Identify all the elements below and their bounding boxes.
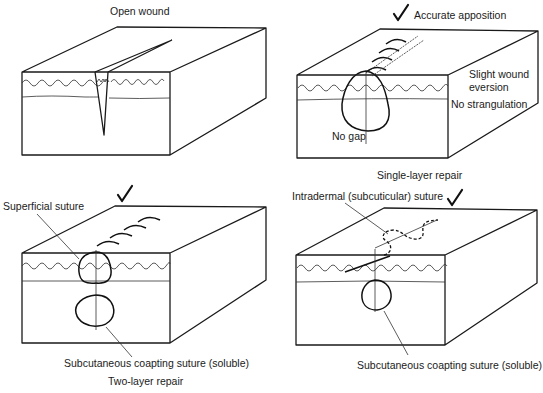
intradermal-suture-dashed [383,220,438,255]
epidermis-wavy-line [298,84,448,91]
panel-two-layer: Superficial suture Subcutaneous coapting… [3,186,266,387]
dermis-boundary-line [22,96,170,99]
caption-two-layer-repair: Two-layer repair [108,375,184,387]
leader-line-intradermal [345,203,388,234]
panel-intradermal: Intradermal (subcuticular) suture Subcut… [292,190,542,371]
suture-loop [342,71,389,131]
checkmark-icon [118,186,132,201]
panel-single-layer: Accurate apposition Slight wound eversio… [297,5,538,181]
subcutaneous-suture-loop [362,280,391,310]
label-superficial-suture: Superficial suture [3,200,84,212]
label-subcutaneous-coapting-suture: Subcutaneous coapting suture (soluble) [64,357,249,369]
epidermis-wavy-line [22,79,164,86]
label-subcutaneous-coapting-suture: Subcutaneous coapting suture (soluble) [357,359,542,371]
label-eversion: eversion [469,81,509,93]
leader-line-subcutaneous [384,311,408,355]
epidermis-wavy-line [297,264,447,271]
label-accurate-apposition: Accurate apposition [414,9,506,21]
caption-single-layer-repair: Single-layer repair [377,169,463,181]
label-no-strangulation: No strangulation [451,98,528,110]
label-slight-wound: Slight wound [469,68,529,80]
panel-open-wound: Open wound [22,5,266,155]
checkmark-icon [448,190,462,205]
tissue-block-outline [296,208,537,345]
wound-cleft [95,40,172,135]
leader-line-superficial [37,214,79,259]
panel-title-open-wound: Open wound [110,5,170,17]
subcutaneous-suture-loop [76,295,114,326]
intradermal-suture-solid [345,256,390,272]
wound-repair-diagram: Open wound Accurate apposition Slight wo… [0,0,543,393]
label-intradermal-suture: Intradermal (subcuticular) suture [292,190,443,202]
label-no-gap: No gap [332,130,366,142]
leader-line-subcutaneous [106,327,132,357]
dermis-boundary-line [297,99,448,100]
tissue-block-outline [22,27,266,155]
checkmark-icon [394,5,408,20]
